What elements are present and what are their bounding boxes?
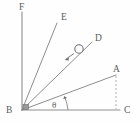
right-angle-marker bbox=[23, 105, 29, 110]
label-vertex-b: B bbox=[6, 105, 12, 115]
motion-arrow-head bbox=[65, 57, 69, 60]
label-vertex-f: F bbox=[19, 2, 24, 12]
label-vertex-e: E bbox=[61, 12, 67, 22]
ray-ba bbox=[22, 75, 116, 110]
geometry-figure: B C A D E F θ bbox=[0, 0, 140, 124]
diagram-canvas: B C A D E F θ bbox=[0, 0, 140, 124]
label-vertex-c: C bbox=[124, 105, 130, 115]
label-vertex-d: D bbox=[95, 33, 102, 43]
motion-arrow-shaft bbox=[66, 54, 74, 60]
ray-be bbox=[22, 23, 57, 110]
label-angle-theta: θ bbox=[52, 100, 56, 110]
object-o-circle bbox=[75, 45, 83, 53]
label-vertex-a: A bbox=[113, 64, 120, 74]
